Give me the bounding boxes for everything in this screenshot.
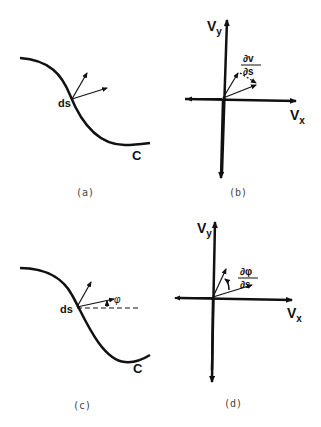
figure-canvas: ds C (a) Vy Vx ∂v ∂s (b) φ ds C (c) xyxy=(0,0,321,427)
x-axis-label: Vx xyxy=(287,305,302,324)
curve-label-c: C xyxy=(132,148,142,163)
normal-vector xyxy=(77,282,91,307)
panel-d: Vy Vx ∂φ ∂s (d) xyxy=(175,220,302,409)
vector-2 xyxy=(223,85,256,98)
caption-b: (b) xyxy=(229,187,247,198)
fraction-denominator: ∂s xyxy=(243,66,254,77)
y-axis-label: Vy xyxy=(197,220,212,239)
caption-d: (d) xyxy=(224,398,242,409)
caption-a: (a) xyxy=(76,187,94,198)
tangent-vector xyxy=(77,299,114,307)
rotation-arc xyxy=(225,279,229,290)
panel-a: ds C (a) xyxy=(20,58,150,198)
fraction-numerator: ∂φ xyxy=(240,266,252,277)
fraction-numerator: ∂v xyxy=(243,53,254,64)
angle-label-phi: φ xyxy=(114,294,121,305)
fraction-denominator: ∂s xyxy=(240,279,251,290)
curve-c xyxy=(20,58,150,145)
x-axis-label: Vx xyxy=(290,107,305,126)
y-axis-neg xyxy=(212,299,213,382)
point-label-ds: ds xyxy=(58,97,71,109)
y-axis-label: Vy xyxy=(207,18,222,37)
caption-c: (c) xyxy=(73,400,91,411)
curve-c xyxy=(20,268,150,362)
panel-c: φ ds C (c) xyxy=(20,268,150,411)
point-label-ds: ds xyxy=(60,303,73,315)
panel-b: Vy Vx ∂v ∂s (b) xyxy=(185,18,305,198)
curve-label-c: C xyxy=(133,361,143,376)
